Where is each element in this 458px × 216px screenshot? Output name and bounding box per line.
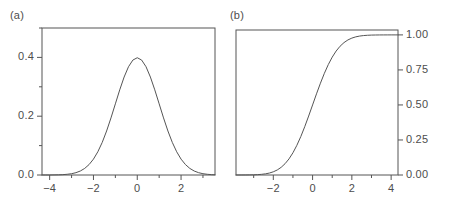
panel-b-xtick-label-3: 4	[371, 182, 411, 194]
panel-b-xtick-label-0: −2	[253, 182, 293, 194]
panel-b-xtick-label-1: 0	[293, 182, 333, 194]
panel-b-ytick-label-3: 0.75	[406, 63, 450, 75]
panel-b-ytick-label-1: 0.25	[406, 133, 450, 145]
panel-b-curve	[236, 35, 398, 175]
figure-canvas: (a)−4−2020.00.20.4(b)−20240.000.250.500.…	[0, 0, 458, 216]
panel-b-ytick-label-2: 0.50	[406, 98, 450, 110]
panel-b-xtick-label-2: 2	[332, 182, 372, 194]
panel-b-frame	[236, 30, 398, 175]
panel-b-ytick-label-0: 0.00	[406, 168, 450, 180]
panel-b-ytick-label-4: 1.00	[406, 28, 450, 40]
